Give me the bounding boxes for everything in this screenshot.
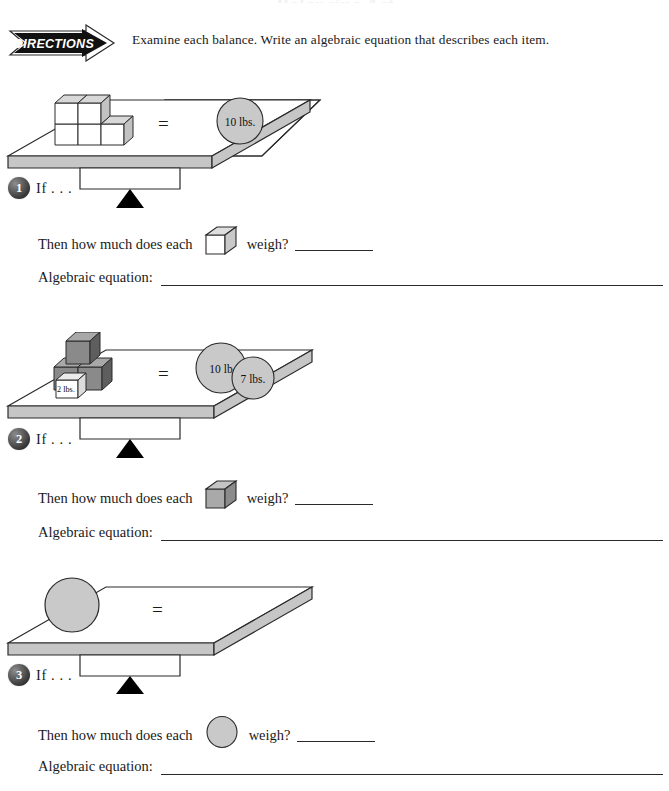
then-row-1: Then how much does each weigh? xyxy=(38,226,373,262)
problem-1: = 10 lbs. 1 If . . . Then how much does … xyxy=(0,84,669,212)
problem-3: = 3 If . . . Then how much does each wei… xyxy=(0,568,669,696)
if-row-3: 3 If . . . xyxy=(8,663,308,687)
svg-text:10 lb: 10 lb xyxy=(209,363,233,375)
problem-number-badge-3: 3 xyxy=(8,664,30,686)
algebraic-equation-row-1: Algebraic equation: xyxy=(38,269,665,286)
sphere-3 xyxy=(45,578,99,632)
then-row-2: Then how much does each weigh? xyxy=(38,480,373,516)
inline-gray-cube-icon-2 xyxy=(204,479,238,515)
svg-text:7 lbs.: 7 lbs. xyxy=(241,373,266,385)
directions-text: Examine each balance. Write an algebraic… xyxy=(132,32,549,48)
algebraic-equation-label-3: Algebraic equation: xyxy=(38,758,153,775)
svg-text:2 lbs.: 2 lbs. xyxy=(57,385,75,394)
then-prefix-3: Then how much does each xyxy=(38,727,193,744)
then-prefix-1: Then how much does each xyxy=(38,236,193,253)
algebraic-equation-blank-1[interactable] xyxy=(161,272,663,286)
answer-blank-1[interactable] xyxy=(295,237,373,251)
directions-arrow-icon: DIRECTIONS xyxy=(8,24,116,62)
problem-number-badge-1: 1 xyxy=(8,177,30,199)
algebraic-equation-blank-3[interactable] xyxy=(161,761,663,775)
weight-circle-7lbs-2: 7 lbs. xyxy=(232,357,274,399)
equals-sign-2: = xyxy=(158,363,169,384)
algebraic-equation-label-1: Algebraic equation: xyxy=(38,269,153,286)
then-prefix-2: Then how much does each xyxy=(38,490,193,507)
weigh-suffix-2: weigh? xyxy=(247,490,289,507)
if-label-1: If . . . xyxy=(36,180,72,197)
if-row-2: 2 If . . . xyxy=(8,427,308,451)
then-row-3: Then how much does each weigh? xyxy=(38,716,375,754)
labeled-cube-2lbs: 2 lbs. xyxy=(56,373,86,398)
equals-sign-1: = xyxy=(158,113,169,134)
problem-2: 2 lbs. = 10 lb 7 lbs. 2 If . . . Then xyxy=(0,332,669,460)
weigh-suffix-3: weigh? xyxy=(249,727,291,744)
equals-sign-3: = xyxy=(152,599,163,620)
directions-arrow-banner: DIRECTIONS xyxy=(8,24,116,62)
svg-text:10 lbs.: 10 lbs. xyxy=(225,116,256,128)
page-title: Balancing Act xyxy=(0,0,669,3)
directions-banner-label: DIRECTIONS xyxy=(14,37,94,51)
directions-row: DIRECTIONS Examine each balance. Write a… xyxy=(0,24,669,64)
weight-circle-10lbs-1: 10 lbs. xyxy=(217,98,263,144)
algebraic-equation-row-2: Algebraic equation: xyxy=(38,524,665,541)
inline-white-cube-icon-1 xyxy=(204,225,238,261)
inline-gray-circle-icon-3 xyxy=(204,715,240,753)
answer-blank-3[interactable] xyxy=(297,728,375,742)
weigh-suffix-1: weigh? xyxy=(247,236,289,253)
algebraic-equation-blank-2[interactable] xyxy=(161,527,663,541)
answer-blank-2[interactable] xyxy=(295,491,373,505)
algebraic-equation-row-3: Algebraic equation: xyxy=(38,758,665,775)
if-label-2: If . . . xyxy=(36,431,72,448)
if-row-1: 1 If . . . xyxy=(8,176,308,200)
algebraic-equation-label-2: Algebraic equation: xyxy=(38,524,153,541)
if-label-3: If . . . xyxy=(36,667,72,684)
platform-1 xyxy=(8,100,310,168)
problem-number-badge-2: 2 xyxy=(8,428,30,450)
